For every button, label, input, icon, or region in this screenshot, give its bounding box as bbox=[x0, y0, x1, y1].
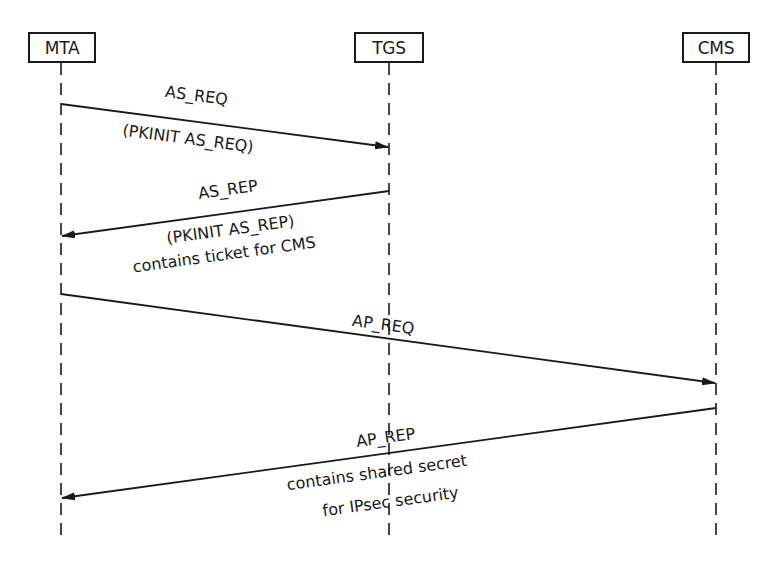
actor-label: TGS bbox=[372, 38, 405, 58]
actor-tgs: TGS bbox=[354, 32, 424, 63]
sequence-diagram-canvas bbox=[0, 0, 775, 572]
actor-label: CMS bbox=[698, 38, 734, 58]
actor-mta: MTA bbox=[28, 32, 96, 63]
actor-label: MTA bbox=[45, 38, 79, 58]
actor-cms: CMS bbox=[682, 32, 750, 63]
arrow-ap-req bbox=[61, 294, 715, 383]
